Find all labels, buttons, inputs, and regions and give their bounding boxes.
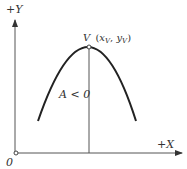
vertex-label: V (xV, yV) xyxy=(83,32,131,45)
vertex-point xyxy=(87,45,91,49)
condition-label: A < 0 xyxy=(58,88,90,101)
parabola-curve xyxy=(38,47,136,121)
y-axis-label: +Y xyxy=(6,3,24,16)
origin-label: 0 xyxy=(6,156,13,169)
x-axis-label: +X xyxy=(157,138,175,151)
parabola-diagram: +Y +X 0 V (xV, yV) A < 0 xyxy=(0,0,187,169)
origin-point xyxy=(14,151,18,155)
